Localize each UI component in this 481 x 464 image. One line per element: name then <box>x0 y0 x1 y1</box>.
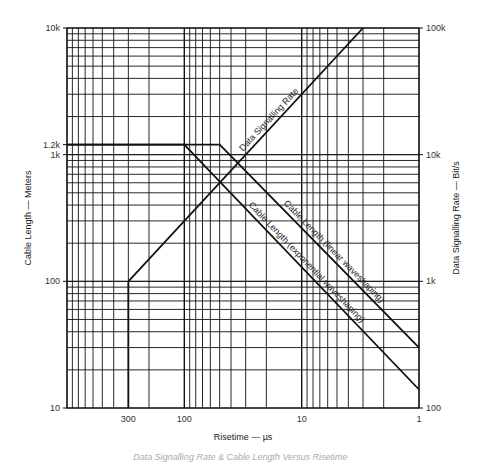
y-axis-left-title: Cable Length — Meters <box>23 170 33 266</box>
y-left-tick-label: 100 <box>45 276 60 286</box>
y-axis-right-title: Data Signalling Rate — Bit/s <box>451 161 461 275</box>
axis-ticks: 300100101101001k1.2k10k1001k10k100k <box>43 23 446 424</box>
y-right-tick-label: 100k <box>426 23 446 33</box>
plot-frame <box>67 28 419 408</box>
x-tick-label: 10 <box>297 414 307 424</box>
x-tick-label: 1 <box>416 414 421 424</box>
x-tick-label: 100 <box>177 414 192 424</box>
x-axis-title: Risetime — µs <box>214 432 273 442</box>
data-rate-label: Data Signalling Rate <box>237 86 300 153</box>
y-right-tick-label: 1k <box>426 276 436 286</box>
risetime-chart: 300100101101001k1.2k10k1001k10k100k Data… <box>0 0 481 464</box>
figure-caption: Data Signalling Rate & Cable Length Vers… <box>0 452 481 462</box>
y-left-tick-label: 10k <box>45 23 60 33</box>
data-series <box>67 28 419 408</box>
x-tick-label: 300 <box>121 414 136 424</box>
y-right-tick-label: 10k <box>426 150 441 160</box>
y-left-tick-label: 1.2k <box>43 140 61 150</box>
grid-lines <box>67 28 419 408</box>
y-right-tick-label: 100 <box>426 403 441 413</box>
y-left-tick-label: 1k <box>50 150 60 160</box>
y-left-tick-label: 10 <box>50 403 60 413</box>
series-line <box>67 145 419 390</box>
